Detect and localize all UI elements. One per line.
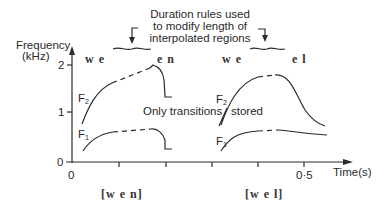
x-tick-half: 0·5: [296, 170, 313, 182]
f1-left-interpolated: [113, 129, 151, 132]
f1-left-label: F1: [78, 129, 89, 141]
f2-right-interpolated: [258, 75, 275, 77]
segment-left-start: w e: [85, 53, 105, 65]
segment-right-start: w e: [222, 53, 242, 65]
y-axis-label-line2: (kHz): [22, 51, 49, 63]
f1-left-transition-end: [151, 129, 172, 149]
f2-right-transition-end: [275, 75, 325, 126]
f2-left-label: F2: [78, 93, 89, 105]
y-tick-2: 2: [58, 60, 64, 72]
f1-right-transition-end: [277, 130, 327, 135]
y-tick-1: 1: [58, 107, 64, 119]
word-left: [w e n]: [101, 188, 143, 200]
duration-rules-annotation: Duration rules used to modify length of …: [138, 8, 262, 44]
word-right: [w e l]: [245, 188, 283, 200]
right-wavy-bracket-icon: [250, 48, 285, 49]
annotation-line-3: interpolated regions: [138, 32, 262, 44]
x-axis-label: Time(s): [333, 167, 372, 179]
y-tick-0: 0: [57, 157, 63, 169]
f1-right-interpolated: [258, 130, 277, 131]
only-transitions-label: Only transitions: [143, 106, 222, 118]
segment-left-end: e n: [157, 53, 175, 65]
left-wavy-bracket-icon: [113, 48, 151, 49]
f1-right-label: F1: [216, 136, 227, 148]
x-tick-origin: 0: [68, 170, 74, 182]
f2-left-interpolated: [112, 68, 150, 83]
x-axis-arrow-icon: [343, 159, 353, 165]
segment-right-end: e l: [292, 53, 307, 65]
annotation-line-1: Duration rules used: [138, 8, 262, 20]
stored-label: stored: [231, 106, 263, 118]
annotation-line-2: to modify length of: [138, 20, 262, 32]
f2-left-transition-end: [150, 65, 172, 97]
